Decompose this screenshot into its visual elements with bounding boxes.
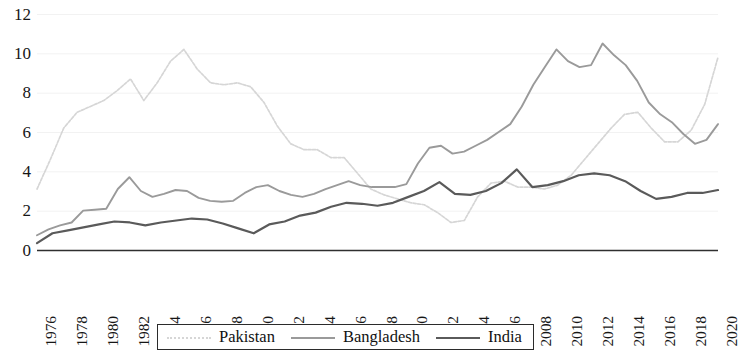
legend-item-pakistan[interactable]: Pakistan	[167, 329, 275, 345]
legend-item-india[interactable]: India	[436, 329, 522, 345]
x-axis-tick: 2016	[663, 316, 677, 353]
legend-label: India	[488, 329, 522, 345]
series-lines	[37, 44, 718, 244]
x-axis-tick: 1978	[75, 316, 89, 353]
x-axis-tick: 2018	[694, 316, 708, 353]
legend-label: Pakistan	[219, 329, 275, 345]
x-axis-tick: 2014	[632, 316, 646, 353]
x-axis-tick-labels: 1976197819801982198419861988199019921994…	[0, 256, 721, 318]
legend-label: Bangladesh	[343, 329, 420, 345]
series-line-india	[37, 169, 718, 243]
x-axis-tick: 2012	[601, 316, 615, 353]
legend-swatch-india	[436, 337, 480, 339]
x-axis-tick: 2020	[725, 316, 739, 353]
gridlines	[37, 15, 718, 212]
chart-legend: PakistanBangladeshIndia	[157, 324, 534, 350]
x-axis-tick: 2008	[539, 316, 553, 353]
legend-swatch-pakistan	[167, 337, 211, 339]
series-line-pakistan	[37, 49, 718, 222]
legend-swatch-bangladesh	[291, 337, 335, 339]
x-axis-tick: 1976	[44, 316, 58, 353]
legend-item-bangladesh[interactable]: Bangladesh	[291, 329, 420, 345]
x-axis-tick: 1980	[106, 316, 120, 353]
x-axis-tick: 2010	[570, 316, 584, 353]
x-axis-tick: 1982	[137, 316, 151, 353]
